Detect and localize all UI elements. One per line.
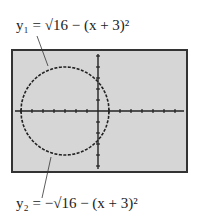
graphing-calculator-screen (0, 0, 197, 221)
